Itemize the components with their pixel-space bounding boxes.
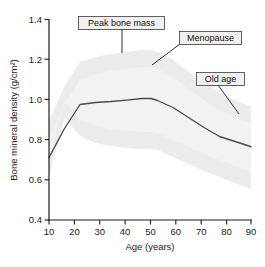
y-tick-label: 1.0 <box>29 94 42 105</box>
x-tick-label: 10 <box>44 226 55 237</box>
x-tick-label: 40 <box>120 226 131 237</box>
y-axis-title: Bone mineral density (g/cm²) <box>8 59 19 180</box>
y-tick-labels: 0.4 0.6 0.8 1.0 1.2 1.4 <box>29 14 42 225</box>
x-tick-label: 50 <box>145 226 156 237</box>
annotation-peak-bone-mass: Peak bone mass <box>79 17 165 54</box>
y-tick-marks <box>45 20 50 221</box>
bone-mineral-density-chart: 0.4 0.6 0.8 1.0 1.2 1.4 10 20 30 40 50 <box>0 0 265 267</box>
caption-fragment <box>0 259 265 267</box>
y-tick-label: 0.8 <box>29 134 42 145</box>
x-axis-title: Age (years) <box>125 241 174 252</box>
x-tick-labels: 10 20 30 40 50 60 70 80 90 <box>44 226 257 237</box>
y-tick-label: 0.6 <box>29 174 42 185</box>
y-tick-label: 1.4 <box>29 14 42 25</box>
x-tick-label: 30 <box>94 226 105 237</box>
peak-bone-mass-label: Peak bone mass <box>88 18 156 28</box>
x-tick-label: 60 <box>171 226 182 237</box>
x-tick-label: 70 <box>196 226 207 237</box>
x-tick-marks <box>49 220 251 225</box>
old-age-label: Old age <box>205 74 237 84</box>
x-tick-label: 90 <box>246 226 257 237</box>
x-tick-label: 80 <box>221 226 232 237</box>
x-tick-label: 20 <box>69 226 80 237</box>
menopause-label: Menopause <box>187 33 234 43</box>
bone-density-figure: 0.4 0.6 0.8 1.0 1.2 1.4 10 20 30 40 50 <box>0 0 265 267</box>
y-tick-label: 1.2 <box>29 54 42 65</box>
y-tick-label: 0.4 <box>29 214 42 225</box>
